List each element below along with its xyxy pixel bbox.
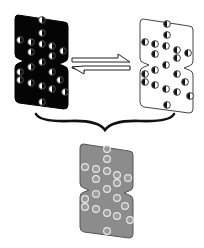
equilibrium-arrows (72, 54, 130, 74)
black-state-particle (15, 15, 68, 109)
diagram-canvas (0, 0, 204, 248)
averaged-gray-particle (80, 144, 133, 238)
curly-brace-connector (36, 114, 174, 130)
white-state-particle (140, 19, 193, 113)
forward-arrow-icon (72, 54, 130, 62)
